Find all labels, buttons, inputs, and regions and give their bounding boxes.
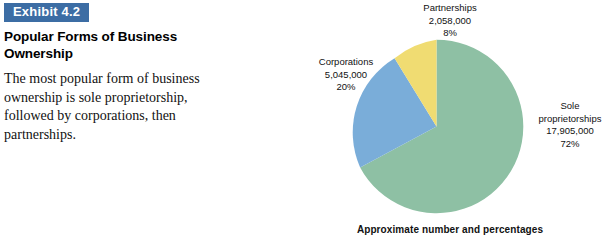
- exhibit-text-column: Exhibit 4.2 Popular Forms of Business Ow…: [4, 2, 234, 145]
- exhibit-title: Popular Forms of Business Ownership: [4, 29, 216, 62]
- pie-label-corporations-percent: 20%: [286, 81, 406, 94]
- pie-label-sole-name-line2: proprietorships: [528, 113, 610, 126]
- pie-label-corporations-name: Corporations: [286, 56, 406, 69]
- pie-label-partnerships-value: 2,058,000: [390, 15, 510, 28]
- pie-label-sole-proprietorships: Sole proprietorships 17,905,000 72%: [528, 100, 610, 151]
- pie-label-corporations: Corporations 5,045,000 20%: [286, 56, 406, 94]
- exhibit-number-badge: Exhibit 4.2: [4, 3, 89, 22]
- pie-label-sole-percent: 72%: [528, 138, 610, 151]
- pie-label-corporations-value: 5,045,000: [286, 69, 406, 82]
- pie-label-sole-name-line1: Sole: [528, 100, 610, 113]
- exhibit-figure: Exhibit 4.2 Popular Forms of Business Ow…: [0, 0, 610, 239]
- pie-label-sole-value: 17,905,000: [528, 125, 610, 138]
- exhibit-description: The most popular form of business owners…: [4, 70, 210, 144]
- pie-chart: Partnerships 2,058,000 8% Corporations 5…: [290, 0, 610, 239]
- pie-label-partnerships-percent: 8%: [390, 27, 510, 40]
- pie-label-partnerships: Partnerships 2,058,000 8%: [390, 2, 510, 40]
- pie-label-partnerships-name: Partnerships: [390, 2, 510, 15]
- chart-caption: Approximate number and percentages: [290, 224, 610, 235]
